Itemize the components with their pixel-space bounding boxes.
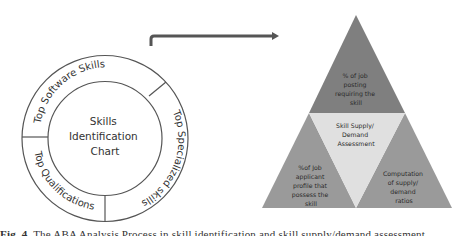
figure-canvas: Top Software Skills Top Specialized skil… — [0, 0, 466, 236]
caption-text: The ABA Analysis Process in skill identi… — [33, 228, 425, 236]
arrowhead-icon — [272, 32, 279, 40]
flow-arrow — [151, 32, 279, 46]
caption-label: Fig. 4. — [0, 228, 30, 236]
skills-identification-ring: Top Software Skills Top Specialized skil… — [22, 56, 188, 222]
pyramid-center-text: Skill Supply/ Demand Assessment — [336, 122, 376, 147]
supply-demand-pyramid: % of job posting requiring the skill Ski… — [262, 15, 452, 208]
figure-caption: Fig. 4. The ABA Analysis Process in skil… — [0, 228, 466, 236]
